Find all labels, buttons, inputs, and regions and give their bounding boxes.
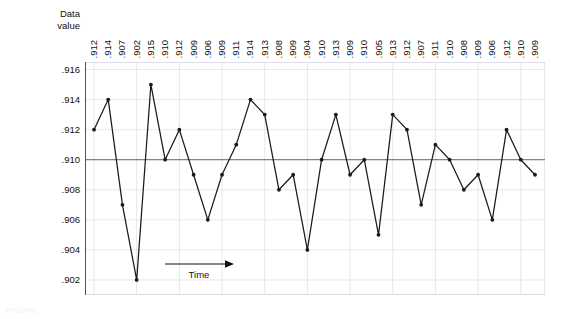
time-axis-annotation: Time [163,258,235,281]
top-value-label: .913 [259,40,269,59]
top-value-label: .912 [501,40,511,59]
top-value-label: .905 [373,40,383,59]
top-value-label: .910 [316,40,326,59]
top-value-label: .914 [103,40,113,59]
y-tick-label: .912 [0,125,80,135]
top-value-label: .908 [273,40,283,59]
top-value-label: .911 [231,40,241,58]
top-value-label: .913 [330,40,340,59]
top-value-label: .912 [174,40,184,59]
run-chart-figure: Data value .912.914.907.902.915.910.912.… [0,0,561,319]
top-value-label: .909 [188,40,198,59]
figure-caption: FIGURE [6,306,36,315]
plot-frame [86,63,545,295]
top-value-labels: .912.914.907.902.915.910.912.909.906.909… [86,0,545,60]
data-line [94,85,535,280]
time-axis-label: Time [163,269,235,281]
top-value-label: .909 [473,40,483,59]
top-value-label: .910 [160,40,170,59]
top-value-label: .910 [515,40,525,59]
top-value-label: .910 [444,40,454,59]
chart-svg [86,62,545,295]
y-tick-label: .908 [0,185,80,195]
top-value-label: .912 [401,40,411,59]
gridlines [86,62,545,295]
top-value-label: .909 [217,40,227,59]
top-value-label: .913 [387,40,397,59]
y-tick-label: .902 [0,275,80,285]
top-value-label: .906 [202,40,212,59]
y-axis-tick-labels: .916.914.912.910.908.906.904.902 [0,0,82,319]
top-value-label: .915 [145,40,155,59]
top-value-label: .908 [458,40,468,59]
top-value-label: .904 [302,40,312,59]
top-value-label: .909 [530,40,540,59]
y-tick-label: .916 [0,65,80,75]
y-tick-label: .904 [0,245,80,255]
top-value-label: .906 [487,40,497,59]
top-value-label: .909 [288,40,298,59]
top-value-label: .907 [416,40,426,59]
top-value-label: .914 [245,40,255,59]
y-tick-label: .910 [0,155,80,165]
plot-area [86,62,545,295]
top-value-label: .907 [117,40,127,59]
top-value-label: .909 [345,40,355,59]
top-value-label: .911 [430,40,440,58]
top-value-label: .902 [131,40,141,59]
top-value-label: .912 [89,40,99,59]
y-tick-label: .914 [0,95,80,105]
y-tick-label: .906 [0,215,80,225]
top-value-label: .910 [359,40,369,59]
